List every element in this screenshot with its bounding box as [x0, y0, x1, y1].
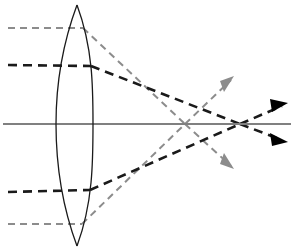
- diagram-background: [0, 0, 294, 252]
- optics-ray-diagram: [0, 0, 294, 252]
- optics-canvas: [0, 0, 294, 252]
